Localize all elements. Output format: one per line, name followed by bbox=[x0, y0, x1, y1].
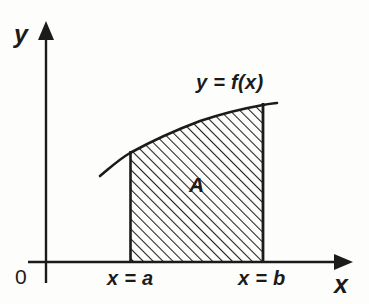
y-axis-label: y bbox=[14, 22, 28, 47]
figure-container: y x 0 y = f(x) A x = a x = b bbox=[0, 0, 369, 304]
lower-bound-label: x = a bbox=[107, 268, 154, 288]
x-axis-arrowhead-icon bbox=[334, 254, 353, 270]
function-curve-label: y = f(x) bbox=[196, 72, 263, 92]
x-axis-label: x bbox=[334, 272, 348, 297]
area-label: A bbox=[189, 174, 204, 195]
upper-bound-label: x = b bbox=[238, 268, 286, 288]
y-axis-arrowhead-icon bbox=[38, 21, 54, 40]
origin-label: 0 bbox=[15, 266, 27, 287]
area-under-curve-diagram bbox=[0, 0, 369, 304]
